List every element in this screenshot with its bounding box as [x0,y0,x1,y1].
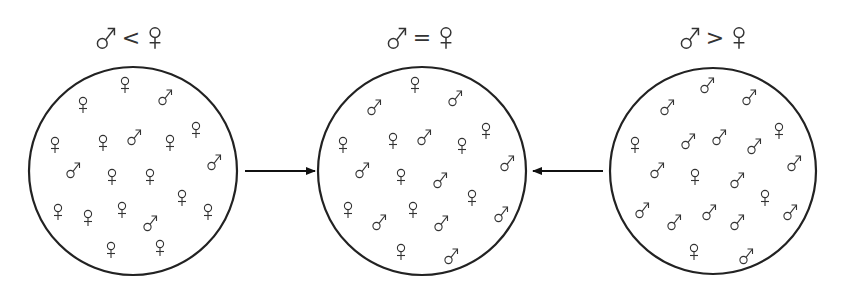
male-symbol-icon [144,216,157,231]
female-symbol-icon [411,77,419,93]
male-symbol-icon [449,91,462,106]
female-symbol-icon [84,210,92,226]
male-symbol-icon [418,130,431,145]
male-symbol-icon [713,130,726,145]
population-circle [318,67,526,275]
population-heading: < [97,25,160,50]
male-symbol-icon [661,100,674,115]
comparison-operator: > [706,25,724,50]
male-symbol-icon [636,203,649,218]
female-symbol-icon [107,242,115,258]
female-symbol-icon [118,202,126,218]
population-male-greater: > [610,25,816,274]
female-symbol-icon [409,202,417,218]
male-symbol-icon [740,249,753,264]
female-symbol-icon [156,240,164,256]
population-circle [610,68,816,274]
female-symbol-icon [204,204,212,220]
female-symbol-icon [121,77,129,93]
female-symbol-icon [166,135,174,151]
male-symbol-icon [97,29,114,49]
male-symbol-icon [434,173,447,188]
male-symbol-icon [668,215,681,230]
male-symbol-icon [208,155,221,170]
male-symbol-icon [67,163,80,178]
male-symbol-icon [703,205,716,220]
female-symbol-icon [397,244,405,260]
female-symbol-icon [99,135,107,151]
female-symbol-icon [734,28,745,49]
female-symbol-icon [79,97,87,113]
male-symbol-icon [495,207,508,222]
female-symbol-icon [51,137,59,153]
comparison-operator: = [413,25,431,50]
female-symbol-icon [54,204,62,220]
male-symbol-icon [388,29,405,49]
population-symbols [339,77,514,263]
female-symbol-icon [775,123,783,139]
population-equal: = [318,25,526,275]
comparison-operator: < [122,25,140,50]
female-symbol-icon [441,28,452,49]
female-symbol-icon [397,169,405,185]
female-symbol-icon [150,28,161,49]
male-symbol-icon [743,90,756,105]
female-symbol-icon [631,137,639,153]
populations-layer: <=> [29,25,816,275]
population-circle [29,67,237,275]
male-symbol-icon [788,156,801,171]
male-symbol-icon [682,134,695,149]
female-symbol-icon [458,138,466,154]
population-heading: = [388,25,451,50]
male-symbol-icon [501,156,514,171]
male-symbol-icon [445,249,458,264]
female-symbol-icon [482,123,490,139]
population-symbols [51,77,221,258]
sex-ratio-diagram: <=> [0,0,848,290]
male-symbol-icon [681,29,698,49]
female-symbol-icon [389,133,397,149]
female-symbol-icon [344,202,352,218]
male-symbol-icon [731,215,744,230]
female-symbol-icon [690,244,698,260]
population-symbols [631,78,801,264]
female-symbol-icon [178,190,186,206]
female-symbol-icon [339,137,347,153]
population-heading: > [681,25,744,50]
male-symbol-icon [159,90,172,105]
female-symbol-icon [146,169,154,185]
male-symbol-icon [731,173,744,188]
population-male-less: < [29,25,237,275]
female-symbol-icon [761,190,769,206]
male-symbol-icon [651,163,664,178]
male-symbol-icon [748,139,761,154]
female-symbol-icon [192,122,200,138]
female-symbol-icon [468,190,476,206]
male-symbol-icon [701,78,714,93]
male-symbol-icon [368,100,381,115]
female-symbol-icon [691,169,699,185]
female-symbol-icon [108,169,116,185]
male-symbol-icon [435,216,448,231]
male-symbol-icon [128,130,141,145]
male-symbol-icon [784,205,797,220]
male-symbol-icon [373,215,386,230]
male-symbol-icon [356,163,369,178]
